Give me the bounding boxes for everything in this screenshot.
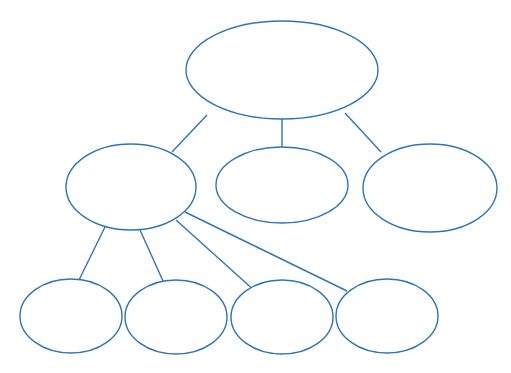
node-layer	[20, 21, 497, 354]
connector-n1-n4	[345, 113, 381, 152]
node-ellipse-n2[interactable]	[66, 144, 196, 230]
node-ellipse-n5[interactable]	[20, 279, 122, 353]
node-ellipse-n4[interactable]	[363, 144, 497, 232]
connector-n2-n5	[79, 227, 105, 280]
connector-n2-n6	[140, 230, 163, 281]
node-ellipse-n3[interactable]	[216, 147, 348, 223]
hierarchy-diagram	[0, 0, 511, 373]
diagram-canvas	[0, 0, 511, 373]
node-ellipse-n8[interactable]	[336, 279, 438, 353]
connector-n1-n2	[172, 115, 207, 152]
connector-n2-n8	[185, 212, 347, 291]
node-ellipse-n6[interactable]	[125, 280, 227, 354]
node-ellipse-n1[interactable]	[186, 21, 378, 119]
node-ellipse-n7[interactable]	[231, 280, 333, 354]
